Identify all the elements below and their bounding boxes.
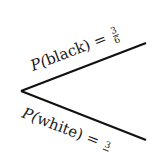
probability-tree-diagram: P(black) = 36 P(white) = 3 [0, 0, 163, 155]
